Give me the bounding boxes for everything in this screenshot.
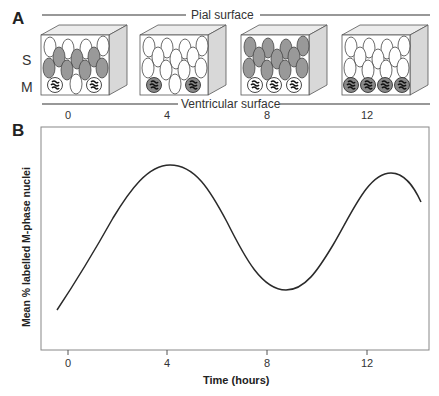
pial-surface-label: Pial surface bbox=[191, 8, 254, 22]
panel-b-letter: B bbox=[12, 121, 24, 141]
cube-time-4 bbox=[140, 25, 226, 95]
cube-time-label-0: 0 bbox=[53, 109, 83, 121]
figure-graphics bbox=[0, 0, 439, 396]
x-tick-0: 0 bbox=[53, 357, 83, 369]
x-tick-4: 4 bbox=[152, 357, 182, 369]
cube-time-label-12: 12 bbox=[352, 109, 382, 121]
cube-time-label-8: 8 bbox=[252, 109, 282, 121]
cube-time-12 bbox=[342, 25, 428, 95]
cube-time-0 bbox=[41, 25, 127, 95]
s-phase-row-label: S bbox=[22, 52, 31, 68]
x-tick-12: 12 bbox=[352, 357, 382, 369]
y-axis-title: Mean % labelled M-phase nuclei bbox=[20, 167, 32, 327]
x-axis-title: Time (hours) bbox=[203, 374, 269, 386]
x-tick-8: 8 bbox=[252, 357, 282, 369]
m-phase-row-label: M bbox=[21, 79, 33, 95]
cube-time-8 bbox=[241, 25, 327, 95]
cube-time-label-4: 4 bbox=[152, 109, 182, 121]
